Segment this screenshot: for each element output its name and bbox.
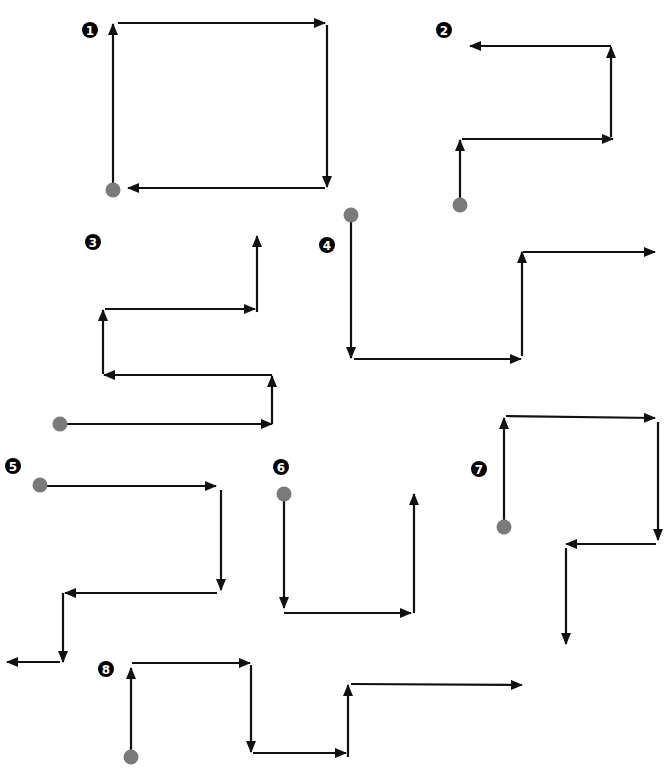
figures-group: 12345678 xyxy=(5,22,658,765)
figure-5: 5 xyxy=(5,458,221,662)
start-point-dot xyxy=(106,183,121,198)
figure-number-badge: 8 xyxy=(98,661,114,677)
start-point-dot xyxy=(453,198,468,213)
figure-number-label: 4 xyxy=(323,239,331,253)
figure-number-label: 2 xyxy=(440,24,448,38)
arrow-segment xyxy=(351,684,522,685)
figure-number-badge: 2 xyxy=(436,22,452,38)
start-point-dot xyxy=(33,478,48,493)
figure-number-label: 6 xyxy=(277,461,285,475)
figure-8: 8 xyxy=(98,661,522,765)
figure-number-badge: 6 xyxy=(273,459,289,475)
figure-number-badge: 7 xyxy=(471,461,487,477)
figure-6: 6 xyxy=(273,459,414,613)
figure-1: 1 xyxy=(82,22,327,198)
figure-number-badge: 3 xyxy=(85,234,101,250)
figure-number-label: 8 xyxy=(102,663,110,677)
figure-number-label: 7 xyxy=(475,463,483,477)
figure-number-badge: 5 xyxy=(5,458,21,474)
figure-3: 3 xyxy=(53,234,273,432)
figure-number-label: 1 xyxy=(86,24,94,38)
start-point-dot xyxy=(344,208,359,223)
paths-diagram-canvas: 12345678 xyxy=(0,0,668,775)
figure-7: 7 xyxy=(471,416,658,644)
start-point-dot xyxy=(53,417,68,432)
figure-number-badge: 4 xyxy=(319,237,335,253)
figure-4: 4 xyxy=(319,208,655,360)
start-point-dot xyxy=(124,750,139,765)
figure-number-label: 5 xyxy=(9,460,17,474)
figure-number-badge: 1 xyxy=(82,22,98,38)
start-point-dot xyxy=(277,487,292,502)
figure-2: 2 xyxy=(436,22,613,213)
figure-number-label: 3 xyxy=(89,236,97,250)
start-point-dot xyxy=(497,520,512,535)
arrow-segment xyxy=(506,416,655,418)
